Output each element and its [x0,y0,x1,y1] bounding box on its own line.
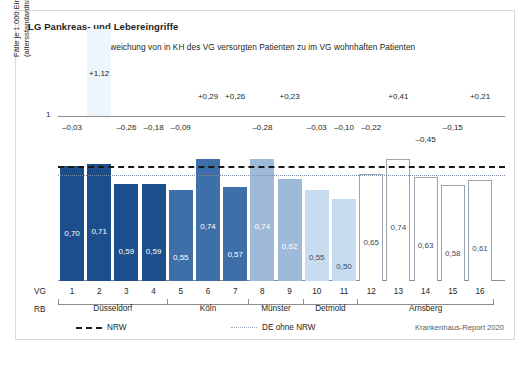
deviation-label-vg-10: –0,03 [305,123,329,132]
deviation-label-vg-4: –0,18 [142,123,166,132]
bar-vg-16[interactable]: 0,61 [468,180,492,281]
x-axis-tick-vg-3: 3 [114,287,138,296]
bar-vg-7[interactable]: 0,57 [223,187,247,281]
bar-vg-14[interactable]: 0,63 [414,177,438,281]
deviation-label-vg-1: –0,03 [60,123,84,132]
y-axis-top-gridline [58,116,505,117]
bar-vg-5[interactable]: 0,55 [169,190,193,281]
bar-value-label: 0,57 [223,250,247,259]
group-label-1: Köln [167,304,249,313]
x-axis-tick-vg-8: 8 [250,287,274,296]
x-axis-tick-vg-12: 12 [359,287,383,296]
chart-subtitle: Abweichung von in KH des VG versorgten P… [100,42,415,52]
bar-value-label: 0,74 [196,222,220,231]
deviation-label-vg-6: +0,29 [196,92,220,101]
group-label-2: Münster [248,304,303,313]
x-axis-tick-vg-9: 9 [278,287,302,296]
bar-vg-4[interactable]: 0,59 [142,184,166,281]
x-axis-tick-vg-13: 13 [386,287,410,296]
bar-vg-6[interactable]: 0,74 [196,159,220,281]
legend-label: NRW [107,323,126,332]
deviation-label-vg-11: –0,10 [332,123,356,132]
bar-value-label: 0,58 [442,249,464,258]
x-axis-tick-vg-15: 15 [441,287,465,296]
bar-vg-3[interactable]: 0,59 [114,184,138,281]
group-label-3: Detmold [303,304,358,313]
bar-vg-15[interactable]: 0,58 [441,185,465,281]
axis-label-rb: RB [34,305,45,314]
legend-swatch-dashed-icon [76,327,102,329]
bar-vg-11[interactable]: 0,50 [332,199,356,282]
legend-item-nrw[interactable]: NRW [76,323,126,332]
x-axis-tick-vg-7: 7 [223,287,247,296]
reference-line-nrw [58,166,505,168]
deviation-label-vg-16: +0,21 [468,92,492,101]
bar-value-label: 0,62 [278,242,302,251]
deviation-label-vg-3: –0,26 [114,123,138,132]
y-axis-tick-1: 1 [46,110,50,119]
bar-value-label: 0,70 [60,229,84,238]
axis-label-vg: VG [34,287,46,296]
x-axis-tick-vg-6: 6 [196,287,220,296]
legend-item-de-ohne-nrw[interactable]: DE ohne NRW [231,323,316,332]
y-axis-title: Fälle je 1.000 Einwohner (altersstandard… [12,0,31,57]
chart-figure: LG Pankreas- und Lebereingriffe Abweichu… [15,10,515,340]
deviation-label-vg-14: –0,45 [414,135,438,144]
deviation-label-vg-2: +1,12 [87,69,111,78]
legend-label: DE ohne NRW [262,323,316,332]
bar-value-label: 0,74 [387,223,409,232]
bar-vg-13[interactable]: 0,74 [386,159,410,281]
x-axis-tick-vg-16: 16 [468,287,492,296]
bar-value-label: 0,65 [360,238,382,247]
bar-vg-1[interactable]: 0,70 [60,166,84,282]
bar-value-label: 0,61 [469,244,491,253]
deviation-label-vg-8: –0,28 [250,123,274,132]
bar-value-label: 0,50 [332,262,356,271]
bar-value-label: 0,63 [415,241,437,250]
bar-vg-12[interactable]: 0,65 [359,174,383,281]
bar-vg-9[interactable]: 0,62 [278,179,302,281]
deviation-label-vg-13: +0,41 [386,92,410,101]
bar-value-label: 0,55 [169,253,193,262]
x-axis-tick-vg-1: 1 [60,287,84,296]
x-axis-tick-vg-14: 14 [414,287,438,296]
y-axis-title-line1: Fälle je 1.000 Einwohner [12,0,21,57]
bar-vg-10[interactable]: 0,55 [305,190,329,281]
x-axis-tick-vg-11: 11 [332,287,356,296]
deviation-label-vg-15: –0,15 [441,123,465,132]
legend-swatch-dotted-icon [231,327,257,328]
reference-line-de-ohne-nrw [58,175,505,176]
deviation-label-vg-7: +0,26 [223,92,247,101]
bar-value-label: 0,71 [87,227,111,236]
bar-value-label: 0,55 [305,253,329,262]
group-label-0: Düsseldorf [58,304,168,313]
x-axis-tick-vg-10: 10 [305,287,329,296]
x-axis-tick-vg-5: 5 [169,287,193,296]
plot-area: 0,70–0,030,71+1,120,59–0,260,59–0,180,55… [58,59,505,281]
deviation-label-vg-5: –0,09 [169,123,193,132]
bar-value-label: 0,59 [142,247,166,256]
deviation-label-vg-9: +0,23 [278,92,302,101]
y-axis-title-line2: (altersstandardisiert) [22,0,31,57]
bar-value-label: 0,74 [250,222,274,231]
bar-value-label: 0,59 [114,247,138,256]
category-axis: 12345678910111213141516DüsseldorfKölnMün… [58,287,505,301]
deviation-label-vg-12: –0,22 [359,123,383,132]
x-axis-tick-vg-2: 2 [87,287,111,296]
bar-vg-8[interactable]: 0,74 [250,159,274,281]
group-label-4: Arnsberg [357,304,494,313]
bar-vg-2[interactable]: 0,71 [87,164,111,281]
source-note: Krankenhaus-Report 2020 [415,323,504,332]
x-axis-tick-vg-4: 4 [142,287,166,296]
